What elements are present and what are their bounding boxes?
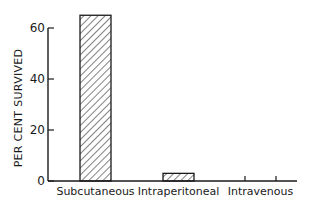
- x-tick-label: Intravenous: [228, 185, 294, 198]
- y-axis-label: PER CENT SURVIVED: [12, 49, 25, 168]
- bar-chart: PER CENT SURVIVED 0204060 SubcutaneousIn…: [0, 0, 312, 207]
- y-tick-label: 0: [37, 174, 45, 188]
- y-tick-label: 20: [30, 123, 45, 137]
- y-axis: 0204060: [30, 21, 54, 188]
- y-tick-label: 60: [30, 21, 45, 35]
- x-tick-label: Subcutaneous: [56, 185, 134, 198]
- bar-intraperitoneal: [163, 173, 194, 181]
- x-tick-label: Intraperitoneal: [138, 185, 220, 198]
- bar-subcutaneous: [80, 15, 111, 181]
- bars: [80, 15, 276, 181]
- y-tick-label: 40: [30, 72, 45, 86]
- x-axis-labels: SubcutaneousIntraperitonealIntravenous: [56, 185, 293, 198]
